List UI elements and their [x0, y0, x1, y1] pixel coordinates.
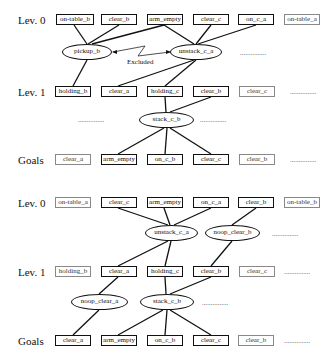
fact-clear-c: clear_c [193, 14, 229, 25]
fact-on-table-a: on-table_a [55, 197, 91, 208]
level-label-lev1: Lev. 1 [18, 266, 45, 278]
fact-holding-b: holding_b [55, 266, 91, 277]
fact-clear-b: clear_b [193, 266, 229, 277]
action-noop-clear-b: noop_clear_b [205, 225, 260, 241]
level-label-goals: Goals [18, 335, 44, 347]
ellipsis: ............... [272, 231, 298, 237]
ellipsis: ............... [200, 117, 226, 123]
fact-clear-b: clear_b [101, 14, 137, 25]
ellipsis: ............... [290, 89, 316, 95]
level-label-lev0: Lev. 0 [18, 197, 45, 209]
action-unstack-c-a: unstack_c_a [170, 44, 222, 60]
fact-on-table-a: on-table_a [284, 14, 320, 25]
goal-clear-a: clear_a [55, 154, 91, 165]
action-pickup-b: pickup_b [62, 44, 112, 60]
action-stack-c-b: stack_c_b [140, 294, 194, 310]
fact-clear-b: clear_b [193, 86, 229, 97]
action-unstack-c-a: unstack_c_a [145, 225, 198, 241]
fact-clear-a: clear_a [101, 266, 137, 277]
mutex-link [113, 46, 170, 56]
mutex-label: Excluded [127, 58, 153, 66]
fact-on-table-b: on-table_b [56, 14, 94, 25]
fact-on-table-b: on-table_b [284, 197, 320, 208]
fact-holding-c: holding_c [147, 266, 183, 277]
fact-holding-b: holding_b [55, 86, 91, 97]
fact-on-c-a: on_c_a [238, 14, 274, 25]
goal-clear-a: clear_a [55, 335, 91, 346]
ellipsis: ............... [284, 269, 310, 275]
goal-clear-b: clear_b [238, 335, 274, 346]
fact-clear-b: clear_b [238, 197, 274, 208]
ellipsis: ............... [78, 117, 104, 123]
action-noop-clear-a: noop_clear_a [71, 294, 128, 310]
goal-on-c-b: on_c_b [147, 335, 183, 346]
goal-arm-empty: arm_empty [101, 335, 137, 346]
fact-clear-c: clear_c [239, 266, 275, 277]
ellipsis: ............... [290, 157, 316, 163]
level-label-lev1: Lev. 1 [18, 86, 45, 98]
goal-arm-empty: arm_empty [101, 154, 137, 165]
ellipsis: ............... [202, 300, 228, 306]
goal-on-c-b: on_c_b [147, 154, 183, 165]
level-label-lev0: Lev. 0 [18, 14, 45, 26]
goal-clear-c: clear_c [193, 335, 229, 346]
fact-on-c-a: on_c_a [193, 197, 229, 208]
goal-clear-b: clear_b [239, 154, 275, 165]
goal-clear-c: clear_c [193, 154, 229, 165]
fact-arm-empty: arm_empty [147, 197, 183, 208]
fact-clear-c: clear_c [101, 197, 137, 208]
action-stack-c-b: stack_c_b [139, 112, 194, 128]
ellipsis: ............... [240, 50, 266, 56]
fact-arm-empty: arm_empty [147, 14, 183, 25]
fact-clear-a: clear_a [101, 86, 137, 97]
fact-holding-c: holding_c [147, 86, 183, 97]
level-label-goals: Goals [18, 154, 44, 166]
fact-clear-c: clear_c [239, 86, 275, 97]
ellipsis: ............... [284, 338, 310, 344]
